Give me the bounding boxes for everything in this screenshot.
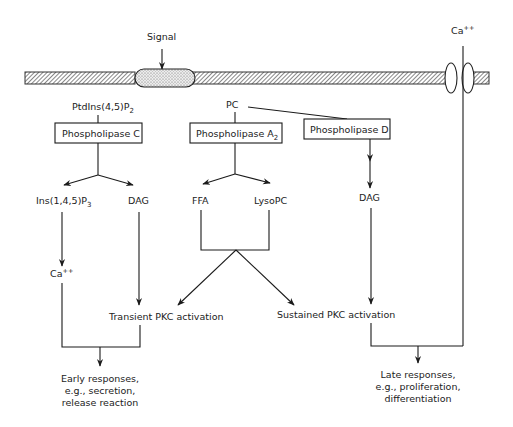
svg-text:e.g., secretion,: e.g., secretion,	[65, 385, 136, 396]
pla2-to-ffa-arrow	[203, 174, 235, 184]
plc-to-dag-arrow	[98, 175, 133, 185]
plc-label: Phospholipase C	[62, 128, 140, 139]
late-merge-line	[371, 323, 463, 346]
pla2-to-lysopc-arrow	[235, 174, 270, 183]
lysopc-label: LysoPC	[254, 195, 288, 206]
cell-membrane	[25, 72, 489, 84]
ffa-label: FFA	[192, 195, 209, 206]
merge-to-transient-arrow	[178, 250, 236, 305]
svg-text:release reaction: release reaction	[62, 397, 138, 408]
svg-text:e.g., proliferation,: e.g., proliferation,	[376, 381, 461, 392]
pld-label: Phospholipase D	[310, 124, 389, 135]
plc-to-ip3-arrow	[64, 175, 98, 185]
merge-to-sustained-arrow	[236, 250, 294, 305]
channel-ca-label: Ca++	[451, 24, 474, 36]
svg-text:Late responses,: Late responses,	[381, 369, 456, 380]
pc-label: PC	[226, 99, 239, 110]
dag-right-label: DAG	[359, 192, 380, 203]
pkc-pathway-diagram: Ca++ Signal PtdIns(4,5)P2 Phospholipase …	[0, 0, 513, 427]
svg-text:Early responses,: Early responses,	[61, 373, 139, 384]
early-responses-text: Early responses, e.g., secretion, releas…	[61, 373, 139, 408]
ffa-lysopc-merge-line	[201, 210, 269, 250]
calcium-label: Ca++	[50, 267, 73, 279]
sustained-pkc-label: Sustained PKC activation	[277, 309, 395, 320]
pc-to-pld-line	[248, 107, 347, 119]
signal-label: Signal	[147, 31, 176, 42]
transient-pkc-label: Transient PKC activation	[108, 311, 224, 322]
calcium-channel	[445, 63, 474, 93]
pip2-label: PtdIns(4,5)P2	[72, 101, 134, 115]
ip3-label: Ins(1,4,5)P3	[36, 195, 92, 209]
dag-left-label: DAG	[128, 195, 149, 206]
receptor	[135, 69, 195, 87]
late-responses-text: Late responses, e.g., proliferation, dif…	[376, 369, 461, 404]
svg-text:differentiation: differentiation	[384, 393, 451, 404]
